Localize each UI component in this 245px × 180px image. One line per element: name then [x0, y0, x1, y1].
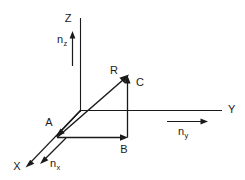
- y-axis-label: Y: [228, 103, 236, 115]
- component-c-group: C: [124, 76, 144, 138]
- ny-label: n: [178, 125, 184, 137]
- nz-unit-vector-group: n z: [57, 31, 75, 66]
- nx-label: n: [50, 157, 56, 169]
- y-axis-group: Y: [81, 103, 237, 115]
- ny-unit-vector-group: n y: [167, 119, 208, 140]
- x-axis-label: X: [13, 160, 21, 172]
- ny-arrowhead-icon: [201, 119, 209, 125]
- x-axis-arrowhead-icon: [26, 160, 35, 168]
- resultant-vector-line: [57, 80, 124, 138]
- nx-unit-vector-line: [45, 138, 66, 159]
- component-b-label: B: [120, 143, 127, 155]
- nz-arrowhead-icon: [70, 31, 76, 39]
- nx-subscript-label: x: [57, 163, 61, 172]
- ny-subscript-label: y: [185, 131, 189, 140]
- component-a-label: A: [45, 116, 53, 128]
- component-c-label: C: [136, 76, 144, 88]
- nx-unit-vector-group: n x: [40, 138, 66, 172]
- z-axis-label: Z: [65, 12, 72, 24]
- component-b-group: B: [57, 134, 128, 155]
- vector-diagram-canvas: Z n z Y n y X n: [0, 0, 245, 180]
- resultant-vector-group: R: [57, 64, 129, 138]
- nz-subscript-label: z: [64, 39, 68, 48]
- component-a-line: [61, 111, 81, 132]
- vector-diagram-svg: Z n z Y n y X n: [0, 0, 245, 180]
- component-b-arrowhead-icon: [120, 134, 128, 140]
- nz-label: n: [57, 33, 63, 45]
- resultant-vector-label: R: [110, 64, 118, 76]
